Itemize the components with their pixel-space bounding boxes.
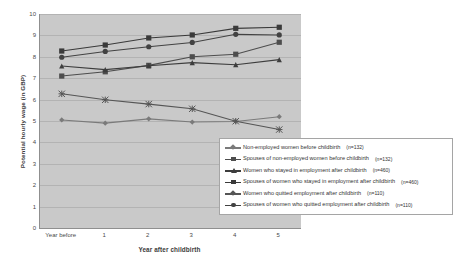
y-tick-label: 2	[20, 182, 36, 188]
legend-marker-star-icon	[225, 189, 241, 198]
line-chart: Potential hourly wage (in GBP) 109876543…	[0, 0, 454, 271]
x-tick-label: 5	[277, 232, 280, 238]
y-tick-label: 0	[20, 225, 36, 231]
y-tick-label: 4	[20, 139, 36, 145]
y-tick-label: 3	[20, 161, 36, 167]
legend-marker-circle-icon	[225, 201, 241, 210]
legend-marker-diamond-icon	[225, 143, 241, 152]
y-tick-label: 10	[20, 11, 36, 17]
y-tick-label: 8	[20, 54, 36, 60]
series-3	[59, 25, 282, 54]
legend-item[interactable]: Women who stayed in employment after chi…	[222, 165, 450, 177]
x-tick-label: 2	[146, 232, 149, 238]
x-axis-tick-labels: Year before12345	[39, 232, 300, 244]
legend-label: Non-employed women before childbirth	[243, 145, 340, 151]
y-axis-tick-labels: 109876543210	[18, 0, 36, 271]
y-tick-label: 6	[20, 97, 36, 103]
legend-marker-square-icon	[225, 155, 241, 164]
legend-sample-size: (n=110)	[367, 191, 384, 196]
x-tick-label: 4	[233, 232, 236, 238]
legend-marker-square-icon	[225, 178, 241, 187]
x-tick-label: Year before	[45, 232, 76, 238]
series-4	[59, 91, 283, 133]
legend-sample-size: (n=132)	[375, 157, 392, 162]
x-tick-label: 3	[190, 232, 193, 238]
legend-sample-size: (n=132)	[346, 145, 363, 150]
series-1	[59, 40, 282, 79]
y-tick-label: 5	[20, 118, 36, 124]
legend-label: Women who quitted employment after child…	[243, 191, 361, 197]
chart-legend: Non-employed women before childbirth(n=1…	[219, 138, 453, 215]
y-tick-label: 7	[20, 75, 36, 81]
legend-label: Spouses of women who stayed in employmen…	[243, 179, 395, 185]
legend-item[interactable]: Spouses of women who quitted employment …	[222, 200, 450, 212]
x-tick-label: 1	[103, 232, 106, 238]
y-tick-label: 1	[20, 204, 36, 210]
legend-label: Spouses of women who quitted employment …	[243, 202, 389, 208]
legend-item[interactable]: Spouses of non-employed women before chi…	[222, 154, 450, 166]
legend-label: Spouses of non-employed women before chi…	[243, 156, 369, 162]
legend-sample-size: (n=460)	[401, 180, 418, 185]
legend-sample-size: (n=460)	[373, 168, 390, 173]
legend-item[interactable]: Spouses of women who stayed in employmen…	[222, 177, 450, 189]
series-2	[59, 57, 282, 72]
legend-item[interactable]: Women who quitted employment after child…	[222, 188, 450, 200]
legend-label: Women who stayed in employment after chi…	[243, 168, 367, 174]
legend-sample-size: (n=110)	[395, 203, 412, 208]
x-axis-title: Year after childbirth	[39, 246, 300, 253]
legend-item[interactable]: Non-employed women before childbirth(n=1…	[222, 142, 450, 154]
legend-marker-triangle-icon	[225, 166, 241, 175]
y-tick-label: 9	[20, 32, 36, 38]
